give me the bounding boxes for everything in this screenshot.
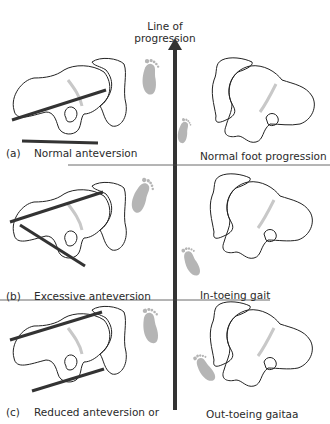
footprint-icon	[180, 245, 203, 278]
row-c-right-femur	[210, 302, 312, 387]
footprint-icon	[192, 351, 219, 384]
row-b-right-femur	[210, 174, 312, 259]
footprint-icon	[141, 58, 160, 95]
anteversion-diagram	[0, 0, 330, 424]
footprint-icon	[176, 117, 193, 144]
row-a-letter: (a)	[6, 147, 21, 159]
row-a-left-label: Normal anteversion	[34, 147, 137, 159]
row-c-left-femur	[10, 306, 126, 391]
progression-arrow	[168, 38, 182, 410]
row-b-right-label: In-toeing gait	[200, 289, 270, 301]
row-a-right-femur	[212, 58, 314, 143]
row-c-right-label: Out-toeing gaitaa	[206, 408, 298, 420]
row-a-left-femur	[12, 58, 126, 143]
row-b-letter: (b)	[6, 290, 21, 302]
row-a-right-label: Normal foot progression	[200, 150, 327, 162]
footprint-icon	[128, 176, 157, 215]
row-b-left-label: Excessive anteversion	[34, 290, 151, 302]
row-c-letter: (c)	[6, 406, 20, 418]
row-b-left-femur	[10, 182, 126, 266]
footprint-icon	[142, 307, 161, 344]
row-c-left-label: Reduced anteversion or	[34, 406, 159, 418]
